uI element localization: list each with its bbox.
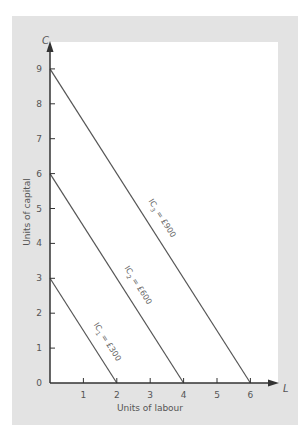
x-tick-label: 4	[181, 390, 187, 400]
x-tick-label: 5	[214, 390, 220, 400]
y-tick-label: 8	[36, 99, 42, 109]
x-tick-label: 2	[114, 390, 120, 400]
x-tick-label: 6	[248, 390, 254, 400]
y-tick-label: 2	[36, 308, 42, 318]
y-tick-label: 5	[36, 204, 42, 214]
x-axis-letter: L	[283, 383, 289, 394]
y-tick-label: 7	[36, 134, 42, 144]
y-tick-label: 0	[36, 378, 42, 388]
y-tick-label: 4	[36, 238, 42, 248]
x-axis-title: Units of labour	[117, 403, 183, 413]
y-tick-label: 9	[36, 64, 42, 74]
isocost-chart: IC1 = £300IC2 = £600IC3 = £900 123456012…	[0, 0, 305, 432]
y-tick-label: 6	[36, 169, 42, 179]
y-tick-label: 1	[36, 343, 42, 353]
x-tick-label: 3	[147, 390, 153, 400]
y-tick-label: 3	[36, 273, 42, 283]
y-axis-title: Units of capital	[22, 178, 32, 246]
x-tick-label: 1	[81, 390, 87, 400]
y-axis-letter: C	[42, 35, 49, 46]
